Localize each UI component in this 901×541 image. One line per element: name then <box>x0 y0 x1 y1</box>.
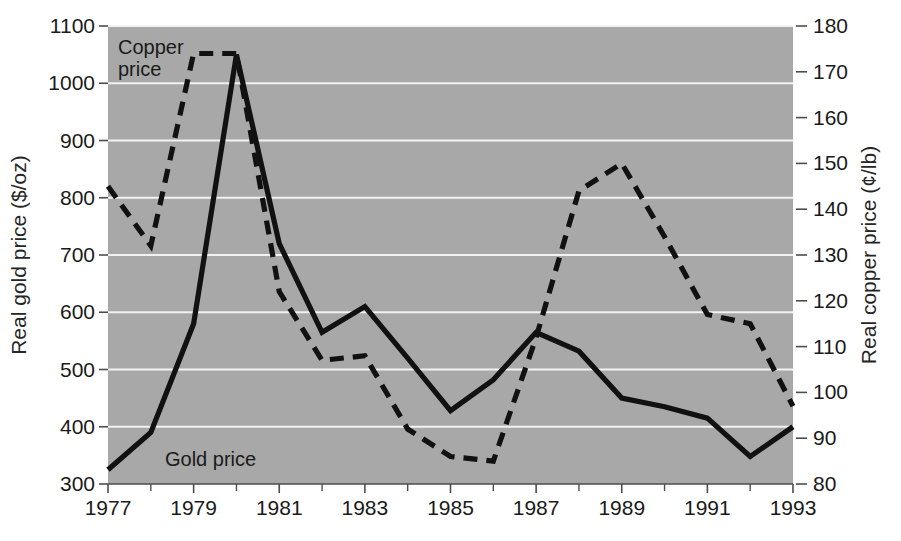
y2-axis-tick-label: 80 <box>813 472 836 495</box>
y2-axis-tick-label: 180 <box>813 14 848 37</box>
y2-axis-tick-labels: 8090100110120130140150160170180 <box>813 14 848 495</box>
chart-figure: 197719791981198319851987198919911993 300… <box>0 0 901 541</box>
copper-series-label-line2: price <box>118 58 161 80</box>
x-axis-tick-label: 1989 <box>598 496 645 519</box>
y2-axis-tick-label: 110 <box>813 335 846 358</box>
y-axis-tick-label: 700 <box>60 243 95 266</box>
x-axis-tick-labels: 197719791981198319851987198919911993 <box>85 496 817 519</box>
x-axis-tick-label: 1993 <box>770 496 817 519</box>
y2-axis-tick-label: 170 <box>813 60 848 83</box>
y-axis-tick-label: 800 <box>60 186 95 209</box>
y2-axis-tick-label: 160 <box>813 106 848 129</box>
y-axis-tick-label: 900 <box>60 129 95 152</box>
gold-series-label: Gold price <box>165 448 256 470</box>
x-axis-tick-label: 1977 <box>85 496 132 519</box>
y-axis-tick-label: 1000 <box>48 71 95 94</box>
y-axis-tick-label: 400 <box>60 415 95 438</box>
x-axis-tick-label: 1985 <box>427 496 474 519</box>
y-axis-tick-label: 500 <box>60 358 95 381</box>
x-axis-tick-label: 1987 <box>513 496 560 519</box>
copper-series-label-line1: Copper <box>118 36 184 58</box>
y2-axis-tick-label: 120 <box>813 289 848 312</box>
y-axis-tick-label: 600 <box>60 300 95 323</box>
x-axis-ticks <box>108 484 793 493</box>
x-axis-tick-label: 1991 <box>684 496 731 519</box>
y2-axis-ticks <box>796 26 807 484</box>
y-axis-tick-label: 1100 <box>50 14 95 37</box>
y-axis-tick-labels: 30040050060070080090010001100 <box>48 14 95 495</box>
x-axis-tick-label: 1981 <box>256 496 303 519</box>
y2-axis-tick-label: 140 <box>813 197 848 220</box>
price-comparison-line-chart: 197719791981198319851987198919911993 300… <box>0 0 901 541</box>
y2-axis-tick-label: 130 <box>813 243 848 266</box>
x-axis-tick-label: 1983 <box>342 496 389 519</box>
y-axis-ticks <box>99 26 108 484</box>
y2-axis-title: Real copper price (¢/lb) <box>857 146 880 364</box>
y-axis-title: Real gold price ($/oz) <box>7 155 30 355</box>
y2-axis-tick-label: 90 <box>813 426 836 449</box>
y2-axis-tick-label: 100 <box>813 380 848 403</box>
x-axis-tick-label: 1979 <box>170 496 217 519</box>
y2-axis-tick-label: 150 <box>813 151 848 174</box>
y-axis-tick-label: 300 <box>60 472 95 495</box>
